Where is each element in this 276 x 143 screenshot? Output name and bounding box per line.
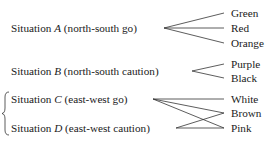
color-orange: Orange: [231, 37, 264, 50]
edge-d-brown: [176, 113, 224, 128]
situation-a-label: Situation A (north-south go): [11, 22, 137, 35]
color-red: Red: [231, 22, 249, 35]
edge-b-black: [192, 71, 224, 78]
color-white: White: [231, 93, 258, 106]
edge-c-brown: [153, 99, 224, 113]
edge-c-pink: [153, 99, 224, 128]
edge-a-orange: [164, 28, 224, 43]
color-green: Green: [231, 7, 258, 20]
edge-a-green: [164, 13, 224, 28]
brace-icon: [2, 92, 9, 135]
color-brown: Brown: [231, 107, 261, 120]
color-pink: Pink: [231, 122, 252, 135]
edge-b-purple: [192, 64, 224, 71]
situation-b-label: Situation B (north-south caution): [11, 65, 159, 78]
situation-d-label: Situation D (east-west caution): [11, 122, 150, 135]
color-black: Black: [231, 72, 257, 85]
situation-c-label: Situation C (east-west go): [11, 93, 128, 106]
color-purple: Purple: [231, 58, 260, 71]
